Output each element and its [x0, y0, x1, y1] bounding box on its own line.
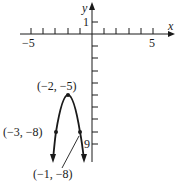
right-point: [78, 130, 82, 134]
x-axis-label: x: [167, 19, 174, 33]
y-axis: y 1 9: [81, 1, 98, 162]
leader-line: [62, 136, 79, 168]
left-arrow-icon: [50, 154, 56, 163]
left-point: [54, 130, 58, 134]
x-tick-label-5: 5: [149, 36, 155, 50]
right-point-label: (−1, −8): [33, 167, 73, 181]
vertex-point: [66, 93, 70, 97]
y-axis-arrow-icon: [89, 2, 95, 10]
x-tick-label-neg5: −5: [22, 36, 35, 50]
x-axis: −5 5 x: [20, 19, 175, 50]
left-point-label: (−3, −8): [3, 125, 43, 139]
y-axis-ticks: [92, 22, 98, 144]
right-arrow-icon: [81, 154, 87, 163]
graph-canvas: −5 5 x y 1 9 (−2, −5): [0, 0, 176, 181]
vertex-label: (−2, −5): [37, 79, 77, 93]
y-tick-label-1: 1: [83, 15, 89, 29]
y-tick-label-neg9: 9: [84, 137, 90, 151]
parabola-curve: [50, 93, 87, 163]
y-axis-label: y: [81, 1, 88, 15]
